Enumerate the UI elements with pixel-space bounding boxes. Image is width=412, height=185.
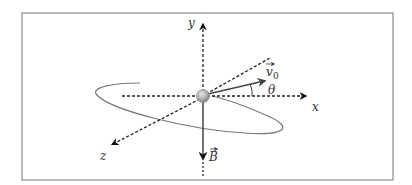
svg-text:0: 0 [273,71,279,81]
svg-text:B: B [208,150,218,164]
b-field-label: B [208,149,218,164]
svg-text:v: v [266,65,273,79]
helical-motion-diagram: y x z θ v 0 B [0,0,412,185]
x-axis-label: x [312,100,319,114]
particle [197,90,210,103]
z-axis-label: z [99,149,107,163]
theta-label: θ [268,83,276,97]
y-axis-label: y [187,16,195,30]
